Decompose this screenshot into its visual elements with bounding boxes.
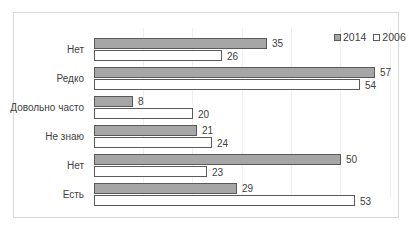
bar-2014 — [94, 125, 197, 136]
legend-label: 2006 — [382, 31, 405, 43]
bar-2006 — [94, 137, 212, 148]
legend-swatch-2006 — [373, 34, 380, 41]
data-label: 50 — [346, 154, 357, 165]
gridline — [291, 28, 292, 198]
data-label: 53 — [360, 196, 371, 207]
data-label: 29 — [242, 183, 253, 194]
legend-swatch-2014 — [334, 34, 341, 41]
category-label: Нет — [67, 44, 84, 56]
data-label: 24 — [217, 138, 228, 149]
category-label: Довольно часто — [10, 102, 84, 114]
legend-label: 2014 — [343, 31, 366, 43]
category-label: Есть — [63, 189, 84, 201]
bar-2006 — [94, 79, 360, 90]
data-label: 26 — [227, 51, 238, 62]
data-label: 20 — [198, 109, 209, 120]
legend-item-2006: 2006 — [373, 31, 405, 43]
bar-2006 — [94, 50, 222, 61]
gridline — [390, 28, 391, 198]
bar-2014 — [94, 183, 237, 194]
bar-2014 — [94, 154, 341, 165]
data-label: 54 — [365, 80, 376, 91]
data-label: 35 — [272, 38, 283, 49]
bar-2006 — [94, 108, 193, 119]
chart-legend: 2014 2006 — [334, 31, 409, 43]
data-label: 23 — [212, 167, 223, 178]
bar-2014 — [94, 96, 133, 107]
data-label: 8 — [138, 96, 144, 107]
bar-2006 — [94, 195, 355, 206]
bar-2006 — [94, 166, 207, 177]
legend-item-2014: 2014 — [334, 31, 366, 43]
gridline — [242, 28, 243, 198]
gridline — [340, 28, 341, 198]
category-label: Не знаю — [45, 131, 84, 143]
category-label: Редко — [57, 73, 84, 85]
bar-2014 — [94, 38, 267, 49]
data-label: 57 — [380, 67, 391, 78]
data-label: 21 — [202, 125, 213, 136]
category-label: Нет — [67, 160, 84, 172]
bar-2014 — [94, 67, 375, 78]
